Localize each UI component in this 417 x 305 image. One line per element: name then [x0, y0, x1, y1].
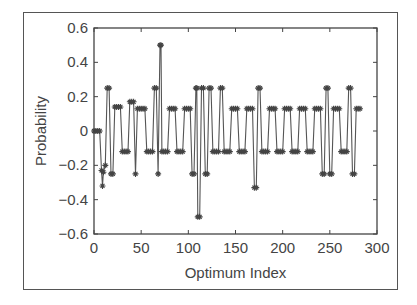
y-tick-label: −0.2 [58, 156, 88, 173]
y-tick-labels: 0.60.40.20−0.2−0.4−0.6 [58, 19, 88, 242]
x-axis-title: Optimum Index [185, 264, 287, 281]
x-tick-label: 200 [270, 239, 295, 256]
x-tick-label: 300 [364, 239, 389, 256]
probability-series-line [94, 45, 360, 217]
probability-chart: 050100150200250300 0.60.40.20−0.2−0.4−0.… [0, 0, 417, 305]
y-tick-label: 0.6 [67, 19, 88, 36]
data-point-markers [91, 42, 363, 220]
star-marker-icon [158, 42, 164, 48]
y-axis-title: Probability [32, 95, 49, 166]
y-tick-label: −0.4 [58, 191, 88, 208]
x-tick-label: 0 [90, 239, 98, 256]
star-marker-icon [102, 162, 108, 168]
star-marker-icon [99, 183, 105, 189]
x-tick-label: 150 [223, 239, 248, 256]
x-tick-label: 250 [317, 239, 342, 256]
x-tick-labels: 050100150200250300 [90, 239, 390, 256]
x-tick-label: 50 [133, 239, 150, 256]
star-marker-icon [155, 171, 161, 177]
y-tick-label: −0.6 [58, 225, 88, 242]
y-tick-label: 0.4 [67, 53, 88, 70]
y-tick-label: 0.2 [67, 88, 88, 105]
y-tick-label: 0 [80, 122, 88, 139]
star-marker-icon [133, 171, 139, 177]
x-tick-label: 100 [176, 239, 201, 256]
